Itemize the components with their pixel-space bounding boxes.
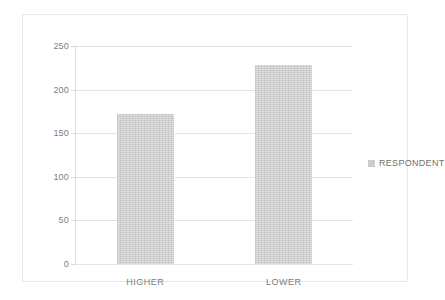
category-label-higher: HIGHER bbox=[100, 277, 190, 287]
chart-legend: RESPONDENT bbox=[368, 158, 445, 168]
y-tick-mark-200 bbox=[71, 90, 76, 91]
y-tick-label-50: 50 bbox=[25, 215, 69, 225]
y-tick-label-150: 150 bbox=[25, 128, 69, 138]
gridline-250 bbox=[76, 46, 353, 47]
y-tick-mark-0 bbox=[71, 264, 76, 265]
legend-swatch-respondent bbox=[368, 160, 375, 167]
y-tick-mark-100 bbox=[71, 177, 76, 178]
bar-lower[interactable] bbox=[255, 65, 312, 264]
y-tick-label-100: 100 bbox=[25, 172, 69, 182]
y-tick-mark-50 bbox=[71, 220, 76, 221]
y-tick-label-0: 0 bbox=[25, 259, 69, 269]
y-tick-label-200: 200 bbox=[25, 85, 69, 95]
y-tick-mark-250 bbox=[71, 46, 76, 47]
plot-area bbox=[76, 46, 353, 264]
category-label-lower: LOWER bbox=[239, 277, 329, 287]
bar-higher[interactable] bbox=[117, 114, 174, 264]
legend-label-respondent: RESPONDENT bbox=[379, 158, 445, 168]
y-tick-label-250: 250 bbox=[25, 41, 69, 51]
y-axis-tick-labels: 050100150200250 bbox=[23, 15, 69, 300]
chart-frame: 050100150200250 RESPONDENT HIGHERLOWER bbox=[22, 14, 408, 282]
gridline-0 bbox=[76, 264, 353, 265]
y-tick-mark-150 bbox=[71, 133, 76, 134]
